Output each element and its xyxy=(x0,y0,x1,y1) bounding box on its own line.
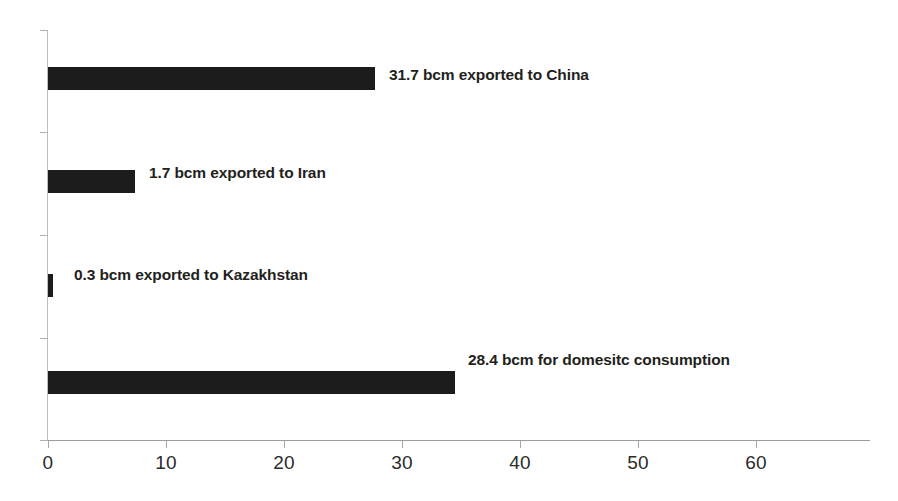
bar-kazakhstan xyxy=(48,274,53,297)
y-axis-tick xyxy=(40,338,48,339)
y-axis-tick xyxy=(40,235,48,236)
x-axis-tick xyxy=(520,441,521,448)
x-axis-tick xyxy=(402,441,403,448)
x-axis-tick-label: 0 xyxy=(43,452,54,474)
bar-label-kazakhstan: 0.3 bcm exported to Kazakhstan xyxy=(74,266,308,284)
x-axis-tick xyxy=(284,441,285,448)
x-axis-tick-label: 50 xyxy=(627,452,649,474)
x-axis-tick-label: 10 xyxy=(155,452,177,474)
y-axis-tick xyxy=(40,440,48,441)
bar-domestic-consumption xyxy=(48,371,455,394)
y-axis-tick xyxy=(40,132,48,133)
bar-label-china: 31.7 bcm exported to China xyxy=(389,66,589,84)
bar-label-domestic-consumption: 28.4 bcm for domesitc consumption xyxy=(468,351,730,369)
x-axis-tick xyxy=(756,441,757,448)
bar-iran xyxy=(48,170,135,193)
bar-chart: 0 10 20 30 40 50 60 31.7 bcm exported to… xyxy=(0,0,898,501)
x-axis-tick-label: 30 xyxy=(391,452,413,474)
plot-area: 0 10 20 30 40 50 60 31.7 bcm exported to… xyxy=(0,0,898,501)
x-axis-tick-label: 40 xyxy=(509,452,531,474)
x-axis-tick-label: 20 xyxy=(273,452,295,474)
x-axis-line xyxy=(47,440,870,441)
x-axis-tick-label: 60 xyxy=(745,452,767,474)
x-axis-tick xyxy=(166,441,167,448)
y-axis-tick xyxy=(40,30,48,31)
x-axis-tick xyxy=(638,441,639,448)
bar-label-iran: 1.7 bcm exported to Iran xyxy=(149,164,326,182)
x-axis-tick xyxy=(48,441,49,448)
bar-china xyxy=(48,67,375,90)
